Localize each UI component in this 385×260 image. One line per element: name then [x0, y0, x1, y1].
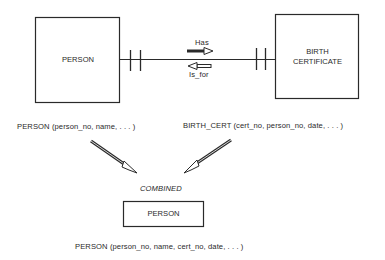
combined-person-entity-label: PERSON [123, 209, 204, 219]
birth-certificate-label-line1: BIRTH [275, 47, 360, 57]
has-relationship-label: Has [195, 38, 209, 47]
birth-certificate-entity-label: BIRTH CERTIFICATE [275, 47, 360, 67]
birth-certificate-label-line2: CERTIFICATE [275, 57, 360, 67]
has-arrow-icon [187, 48, 213, 55]
is-for-relationship-label: Is_for [189, 70, 209, 79]
right-merge-arrow-icon [184, 140, 231, 173]
person-entity-label: PERSON [35, 55, 121, 65]
left-cardinality-one-icon [131, 50, 141, 71]
person-relation-schema: PERSON (person_no, name, . . . ) [17, 122, 135, 131]
birth-cert-relation-schema: BIRTH_CERT (cert_no, person_no, date, . … [183, 121, 343, 130]
combined-person-relation-schema: PERSON (person_no, name, cert_no, date, … [75, 242, 243, 251]
left-merge-arrow-icon [91, 141, 137, 173]
is-for-arrow-icon [188, 63, 211, 70]
combined-label: COMBINED [140, 184, 182, 193]
